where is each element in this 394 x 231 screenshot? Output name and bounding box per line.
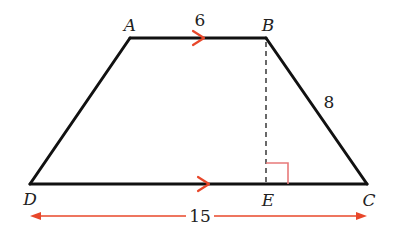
- vertex-label-e: E: [261, 190, 275, 210]
- arrowhead-right-icon: [356, 212, 367, 220]
- length-label-ab: 6: [195, 10, 206, 30]
- vertex-label-b: B: [261, 15, 275, 35]
- right-angle-marker: [266, 163, 288, 184]
- trapezoid-diagram: A B D E C 6 8 15: [0, 0, 394, 231]
- trapezoid-outline: [30, 38, 367, 184]
- length-label-dc: 15: [189, 206, 211, 226]
- vertex-label-d: D: [22, 189, 37, 209]
- vertex-label-a: A: [122, 15, 136, 35]
- arrowhead-left-icon: [30, 212, 41, 220]
- side-bc: [266, 38, 367, 184]
- side-ad: [30, 38, 130, 184]
- length-label-bc: 8: [324, 92, 335, 112]
- vertex-label-c: C: [362, 190, 375, 210]
